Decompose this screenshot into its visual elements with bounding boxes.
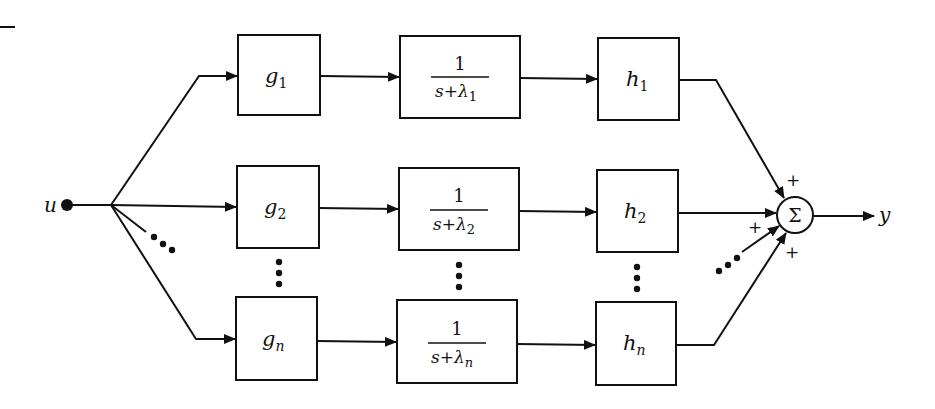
sign-top: + — [786, 170, 800, 190]
block-h1[interactable]: h1 — [598, 38, 679, 120]
sign-bottom: + — [785, 242, 799, 262]
block-gn[interactable]: gn — [236, 297, 317, 380]
block-h2[interactable]: h2 — [597, 170, 678, 252]
output-label: y — [878, 203, 891, 227]
wire-gn-to-dynn — [317, 341, 396, 342]
block-g2[interactable]: g2 — [237, 166, 319, 248]
wire-hn-to-sum — [676, 233, 786, 345]
block-diagram: u g1 g2 gn 1 s+λ1 1 s+λ2 — [0, 0, 935, 409]
block-g1[interactable]: g1 — [238, 35, 320, 115]
ellipsis-right — [716, 255, 740, 274]
wire-dyn1-to-h1 — [520, 78, 597, 79]
input-label: u — [44, 193, 57, 217]
wire-g2-to-dyn2 — [319, 208, 398, 209]
ellipsis-g — [276, 259, 282, 287]
summing-junction[interactable]: Σ — [777, 197, 813, 233]
ellipsis-dyn — [456, 262, 462, 290]
block-dyn1[interactable]: 1 s+λ1 — [400, 36, 520, 118]
ellipsis-left — [151, 234, 175, 253]
wire-dynn-to-hn — [517, 344, 595, 345]
block-dyn2[interactable]: 1 s+λ2 — [399, 168, 519, 250]
wire-dyn2-to-h2 — [519, 211, 596, 212]
block-dynn[interactable]: 1 s+λn — [397, 300, 517, 383]
sign-left: + — [748, 217, 762, 237]
svg-text:1: 1 — [451, 318, 462, 339]
wire-g1-to-dyn1 — [320, 76, 399, 77]
wire-u-to-g1 — [111, 76, 237, 205]
svg-text:1: 1 — [453, 185, 464, 206]
svg-text:1: 1 — [454, 53, 465, 74]
wire-h1-to-sum — [679, 80, 784, 198]
wire-u-to-g2 — [111, 205, 236, 207]
ellipsis-h — [634, 264, 640, 292]
wire-u-to-gn — [111, 205, 235, 339]
svg-text:Σ: Σ — [788, 204, 801, 226]
wire-u-to-more — [111, 205, 146, 232]
block-hn[interactable]: hn — [596, 302, 676, 385]
